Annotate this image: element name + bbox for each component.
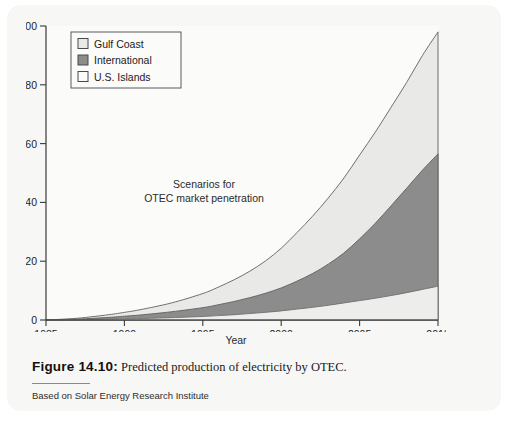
- chart-area: Cumulative capacity (GW): [26, 20, 446, 350]
- annotation-line-1: Scenarios for: [173, 178, 235, 190]
- scanned-page-panel: Cumulative capacity (GW): [8, 6, 500, 410]
- x-tick-label-2005: 2005: [348, 328, 372, 332]
- area-chart-plot: 0 20 40 60 80 100 1985 1990 1995 2: [26, 20, 446, 332]
- legend-swatch-international: [78, 55, 88, 65]
- y-tick-label-60: 60: [26, 138, 37, 150]
- x-axis-label: Year: [26, 334, 446, 346]
- y-tick-label-40: 40: [26, 196, 37, 208]
- y-tick-label-20: 20: [26, 255, 37, 267]
- figure-caption-text: Predicted production of electricity by O…: [118, 360, 347, 374]
- chart-legend: Gulf Coast International U.S. Islands: [71, 32, 181, 88]
- figure-caption-label: Figure 14.10:: [32, 359, 118, 374]
- annotation-line-2: OTEC market penetration: [144, 192, 264, 204]
- x-tick-label-1990: 1990: [113, 328, 137, 332]
- y-tick-label-0: 0: [31, 314, 37, 326]
- x-tick-label-2000: 2000: [270, 328, 294, 332]
- x-tick-label-1985: 1985: [34, 328, 58, 332]
- legend-swatch-gulf-coast: [78, 39, 88, 49]
- caption-divider: [32, 383, 90, 384]
- y-tick-label-80: 80: [26, 79, 37, 91]
- legend-label-gulf-coast: Gulf Coast: [94, 38, 144, 50]
- y-tick-label-100: 100: [26, 20, 37, 32]
- figure-caption: Figure 14.10: Predicted production of el…: [32, 358, 482, 376]
- legend-label-international: International: [94, 54, 152, 66]
- figure-source: Based on Solar Energy Research Institute: [32, 390, 482, 401]
- x-tick-label-2010: 2010: [426, 328, 446, 332]
- figure-caption-block: Figure 14.10: Predicted production of el…: [32, 358, 482, 401]
- x-axis-ticks: [46, 320, 438, 326]
- y-axis-ticks: [40, 26, 46, 320]
- legend-swatch-us-islands: [78, 72, 88, 82]
- figure-chart-block: Cumulative capacity (GW): [8, 6, 500, 356]
- x-tick-label-1995: 1995: [191, 328, 215, 332]
- legend-label-us-islands: U.S. Islands: [94, 71, 151, 83]
